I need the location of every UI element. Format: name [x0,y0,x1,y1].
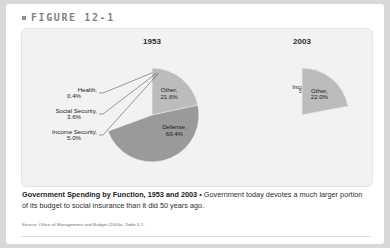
leader-line [99,73,157,114]
caption-separator: • [199,190,202,199]
caption-title: Government Spending by Function, 1953 an… [22,190,197,199]
slice-label-value: 3.6% [67,113,81,120]
leader-line [99,73,153,93]
slice-label-value: 0.4% [67,92,81,99]
square-bullet-icon [22,16,26,20]
figure-card: FIGURE 12-1 1953 2003 Defense,69.4%Other… [6,4,384,244]
bottom-divider [21,236,371,237]
pie-chart-2003: Defense,18.8%Health,21.7%Social Security… [292,68,348,115]
figure-header: FIGURE 12-1 [22,12,115,23]
pie-charts-svg: Defense,69.4%Other,21.6%Health,0.4%Socia… [22,29,372,186]
slice-label-value: 5.0% [67,134,81,141]
caption: Government Spending by Function, 1953 an… [22,190,368,211]
figure-label: FIGURE 12-1 [31,12,115,23]
slice-label-value: 69.4% [166,130,184,137]
pie-chart-1953: Defense,69.4%Other,21.6%Health,0.4%Socia… [52,68,199,162]
slice-label-value: 21.6% [160,93,178,100]
slice-label-value: 22.0% [311,93,329,100]
chart-panel: 1953 2003 Defense,69.4%Other,21.6%Health… [21,28,373,187]
source-note: Source: Office of Management and Budget … [22,222,145,227]
